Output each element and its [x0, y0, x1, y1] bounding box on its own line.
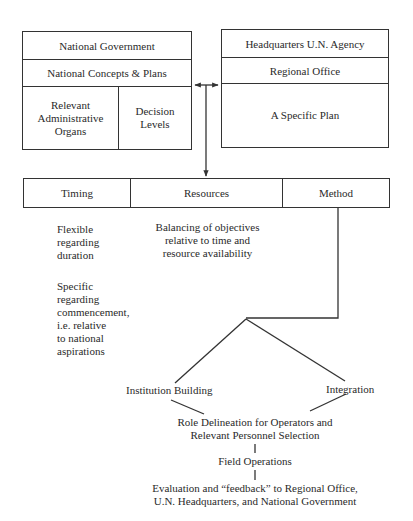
- method-label: Method: [319, 187, 353, 200]
- timing-flexible-note: Flexible regarding duration: [57, 223, 99, 262]
- administrative-organs-label: Relevant Administrative Organs: [38, 99, 104, 138]
- national-government-title: National Government: [23, 32, 191, 60]
- regional-office: Regional Office: [222, 58, 388, 84]
- national-government-box: National Government National Concepts & …: [22, 31, 192, 150]
- merge-line-left: [171, 400, 204, 414]
- resources-note: Balancing of objectives relative to time…: [150, 221, 265, 260]
- resources-header: Resources: [131, 179, 283, 207]
- administrative-organs-cell: Relevant Administrative Organs: [23, 87, 119, 149]
- specific-plan-cell: A Specific Plan: [222, 84, 388, 147]
- timing-header: Timing: [24, 179, 131, 207]
- un-agency-box: Headquarters U.N. Agency Regional Office…: [221, 29, 389, 148]
- un-agency-title: Headquarters U.N. Agency: [222, 30, 388, 58]
- timing-label: Timing: [61, 187, 93, 200]
- decision-levels-cell: Decision Levels: [119, 87, 191, 149]
- branch-line-left: [175, 319, 246, 383]
- role-delineation-text: Role Delineation for Operators and Relev…: [155, 416, 355, 442]
- method-header: Method: [283, 179, 389, 207]
- resources-label: Resources: [184, 187, 229, 200]
- institution-building-label: Institution Building: [126, 384, 212, 397]
- timing-specific-note: Specific regarding commencement, i.e. re…: [57, 280, 129, 358]
- planning-header-row: Timing Resources Method: [23, 178, 390, 208]
- integration-label: Integration: [326, 383, 374, 396]
- branch-line-right: [246, 319, 345, 381]
- specific-plan-label: A Specific Plan: [271, 109, 339, 122]
- national-concepts-plans: National Concepts & Plans: [23, 60, 191, 87]
- decision-levels-label: Decision Levels: [135, 105, 174, 131]
- evaluation-feedback-text: Evaluation and “feedback” to Regional Of…: [135, 482, 375, 508]
- field-operations-text: Field Operations: [195, 455, 315, 468]
- merge-line-right: [310, 394, 346, 411]
